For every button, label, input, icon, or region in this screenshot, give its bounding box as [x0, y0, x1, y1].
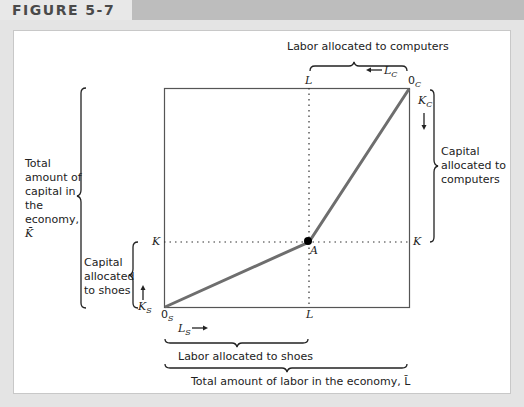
label-total-labor: Total amount of labor in the economy, L̄	[191, 375, 410, 389]
label-K-right: K	[413, 235, 421, 249]
brace-capital-computers	[430, 90, 438, 242]
arrow-left-icon	[366, 68, 371, 73]
label-L-bottom: L	[306, 308, 313, 322]
brace-total-labor	[165, 364, 407, 372]
label-labor-shoes: Labor allocated to shoes	[178, 350, 313, 364]
edgeworth-box	[165, 89, 410, 308]
label-capital-computers: Capital allocated to computers	[441, 145, 506, 187]
label-origin-computers: 0C	[408, 74, 421, 92]
label-point-A: A	[310, 244, 318, 258]
label-total-capital: Total amount of capital in the economy, …	[25, 157, 82, 241]
label-kc: KC	[418, 94, 432, 112]
brace-labor-shoes	[165, 339, 308, 347]
arrow-right-icon	[203, 326, 208, 331]
label-origin-shoes: 0S	[161, 308, 173, 326]
label-capital-shoes: Capital allocated to shoes	[84, 256, 134, 298]
allocation-curve	[165, 89, 409, 307]
label-K-left: K	[152, 235, 160, 249]
label-L-top: L	[305, 74, 312, 88]
arrow-up-icon	[141, 285, 146, 290]
label-ls: LS	[178, 322, 191, 340]
label-labor-computers: Labor allocated to computers	[287, 40, 449, 54]
arrow-down-icon	[422, 125, 427, 130]
figure-frame: FIGURE 5-7 Labor al	[0, 0, 524, 407]
label-lc: LC	[384, 64, 397, 82]
label-ks: KS	[138, 300, 152, 318]
